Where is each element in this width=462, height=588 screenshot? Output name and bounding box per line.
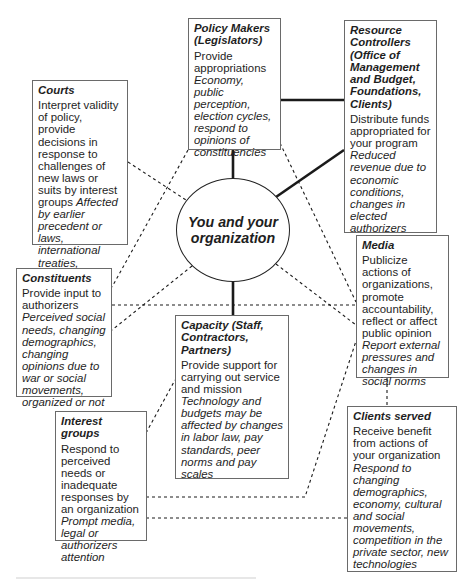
- stakeholder-influences: Prompt media, legal or authorizers atten…: [61, 515, 135, 563]
- stakeholder-clients-served: Clients served Receive benefit from acti…: [347, 406, 457, 572]
- stakeholder-title: Media: [362, 239, 443, 251]
- stakeholder-constituents: Constituents Provide input to authorizer…: [16, 268, 112, 397]
- stakeholder-role: Provide support for carrying out service…: [181, 359, 280, 395]
- stakeholder-title: Courts: [38, 84, 122, 96]
- center-organization-label: You and your organization: [185, 214, 281, 246]
- stakeholder-influences: Economy, public perception, election cyc…: [194, 74, 271, 159]
- stakeholder-role: Distribute funds appropriated for your p…: [350, 113, 430, 149]
- stakeholder-influences: Report external pressures and changes in…: [362, 339, 440, 387]
- stakeholder-influences: Reduced revenue due to economic conditio…: [350, 149, 426, 234]
- stakeholder-courts: Courts Interpret validity of policy, pro…: [32, 80, 128, 245]
- figure-caption-illegible: [16, 577, 256, 585]
- stakeholder-resource-controllers: Resource Controllers (Office of Manageme…: [344, 20, 437, 233]
- stakeholder-role: Provide input to authorizers: [22, 287, 101, 311]
- stakeholder-role: Receive benefit from actions of your org…: [353, 425, 440, 461]
- stakeholder-role: Publicize actions of organizations, prom…: [362, 254, 437, 339]
- stakeholder-influences: Respond to changing demographics, econom…: [353, 462, 448, 571]
- stakeholder-interest-groups: Interest groups Respond to perceived nee…: [55, 411, 147, 541]
- stakeholder-role: Provide appropriations: [194, 50, 266, 74]
- stakeholder-title: Capacity (Staff, Contractors, Partners): [181, 319, 283, 356]
- stakeholder-role: Interpret validity of policy, provide de…: [38, 99, 118, 208]
- stakeholder-media: Media Publicize actions of organizations…: [356, 235, 449, 378]
- stakeholder-title: Constituents: [22, 272, 106, 284]
- stakeholder-influences: Perceived social needs, changing demogra…: [22, 311, 106, 408]
- connector-interest-groups-capacity: [146, 380, 175, 433]
- stakeholder-title: Clients served: [353, 410, 451, 422]
- stakeholder-title: Policy Makers (Legislators): [194, 22, 275, 47]
- connector-center-resource-controllers: [276, 150, 344, 197]
- center-organization-node: You and your organization: [176, 178, 290, 282]
- stakeholder-capacity: Capacity (Staff, Contractors, Partners) …: [175, 315, 289, 479]
- stakeholder-role: Respond to perceived needs or inadequate…: [61, 443, 139, 515]
- stakeholder-policy-makers: Policy Makers (Legislators) Provide appr…: [188, 18, 281, 150]
- stakeholder-title: Resource Controllers (Office of Manageme…: [350, 24, 431, 110]
- stakeholder-title: Interest groups: [61, 415, 141, 440]
- stakeholder-influences: Technology and budgets may be affected b…: [181, 395, 283, 480]
- connector-center-courts: [128, 162, 186, 200]
